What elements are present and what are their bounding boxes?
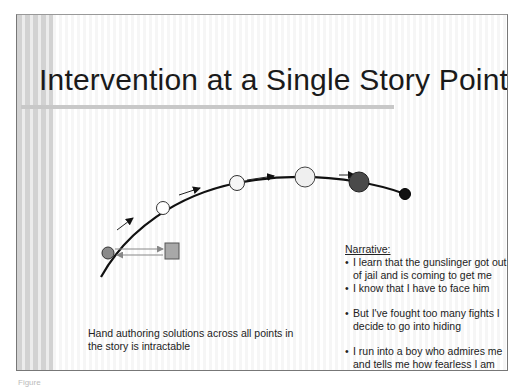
narrative-item-text: I run into a boy who admires me and tell… (353, 345, 502, 370)
bullet: • (345, 256, 349, 269)
narrative-heading: Narrative: (345, 243, 508, 256)
bullet: • (345, 282, 349, 295)
narrative-block: Narrative: • I learn that the gunslinger… (345, 243, 508, 371)
story-point-3 (230, 176, 245, 191)
bullet: • (345, 307, 349, 320)
intractability-note: Hand authoring solutions across all poin… (88, 327, 308, 353)
story-point-4 (295, 167, 315, 187)
direction-arrow-1 (117, 218, 133, 230)
narrative-item: • I run into a boy who admires me and te… (345, 345, 508, 371)
story-point-1 (102, 247, 114, 259)
narrative-item-text: I know that I have to face him (353, 282, 490, 294)
story-point-5 (349, 172, 369, 192)
figure-caption: Figure (18, 378, 41, 387)
narrative-item-text: But I've fought too many fights I decide… (353, 307, 500, 332)
bullet: • (345, 345, 349, 358)
narrative-item: • I learn that the gunslinger got out of… (345, 256, 508, 282)
story-point-2 (157, 202, 170, 215)
slide: Intervention at a Single Story Point (16, 14, 508, 371)
narrative-item: • But I've fought too many fights I deci… (345, 307, 508, 333)
intervention-box (165, 243, 179, 259)
narrative-item: • I know that I have to face him (345, 282, 508, 295)
story-point-6 (400, 189, 411, 200)
narrative-item-text: I learn that the gunslinger got out of j… (353, 256, 507, 281)
